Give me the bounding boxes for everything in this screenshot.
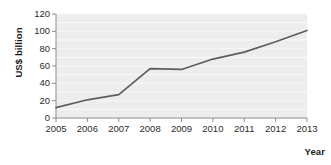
line-chart: US$ billion Year 020406080100120 2005200… <box>0 0 331 165</box>
y-axis-ticks <box>52 14 56 118</box>
x-axis-ticks <box>56 118 307 122</box>
plot-area <box>0 0 331 165</box>
